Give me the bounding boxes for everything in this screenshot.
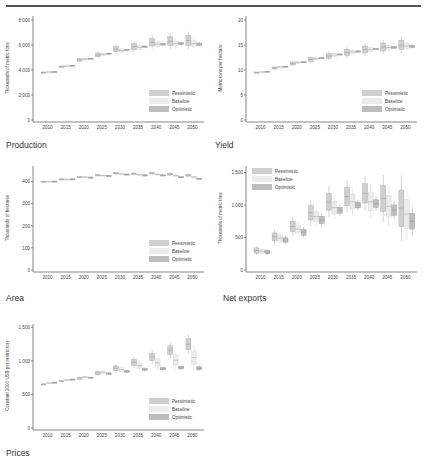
net-exports-plot: 05001,0001,500Thousands of metric tons20… <box>213 160 425 285</box>
legend-swatch <box>149 240 169 246</box>
area-plot: 0100200300400Thousands of hectares201020… <box>0 160 212 285</box>
y-tick-label: 200 <box>22 224 30 229</box>
x-tick-label: 2040 <box>364 275 375 280</box>
x-tick-label: 2035 <box>133 125 144 130</box>
x-tick-label: 2050 <box>400 275 411 280</box>
x-tick-label: 2025 <box>97 125 108 130</box>
y-tick-label: 0 <box>27 268 30 273</box>
x-tick-label: 2030 <box>115 433 126 438</box>
legend-label: Pessimistic <box>385 91 409 96</box>
y-tick-label: 1,500 <box>232 170 244 175</box>
y-tick-label: 0 <box>240 268 243 273</box>
x-tick-label: 2025 <box>97 275 108 280</box>
x-tick-label: 2045 <box>169 125 180 130</box>
x-tick-label: 2020 <box>292 125 303 130</box>
x-tick-label: 2040 <box>151 433 162 438</box>
y-tick-label: 0 <box>240 118 243 123</box>
chart-area: 0100200300400Thousands of hectares201020… <box>0 160 212 310</box>
legend-label: Pessimistic <box>172 399 196 404</box>
x-tick-label: 2030 <box>328 275 339 280</box>
y-tick-label: 4,000 <box>19 68 31 73</box>
y-tick-label: 5 <box>240 93 243 98</box>
y-tick-label: 20 <box>238 18 244 23</box>
legend-label: Baseline <box>172 99 190 104</box>
legend-label: Pessimistic <box>172 241 196 246</box>
chart-title-production: Production <box>6 140 47 150</box>
prices-plot: 05001,0001,500Constant 2000 US$ per metr… <box>0 318 212 443</box>
legend-swatch <box>149 248 169 254</box>
x-tick-label: 2050 <box>187 433 198 438</box>
legend-swatch <box>149 256 169 262</box>
x-tick-label: 2010 <box>42 125 53 130</box>
y-tick-label: 0 <box>27 426 30 431</box>
legend-label: Baseline <box>385 99 403 104</box>
x-tick-label: 2010 <box>42 275 53 280</box>
x-tick-label: 2010 <box>255 275 266 280</box>
x-tick-label: 2015 <box>61 275 72 280</box>
y-tick-label: 1,500 <box>19 325 31 330</box>
x-tick-label: 2035 <box>346 125 357 130</box>
x-tick-label: 2045 <box>382 125 393 130</box>
x-tick-label: 2020 <box>79 125 90 130</box>
y-axis-label: Thousands of hectares <box>5 194 10 241</box>
chart-title-area: Area <box>6 293 24 303</box>
chart-net-exports: 05001,0001,500Thousands of metric tons20… <box>213 160 425 310</box>
y-tick-label: 500 <box>22 392 30 397</box>
x-tick-label: 2020 <box>292 275 303 280</box>
y-tick-label: 0 <box>27 118 30 123</box>
y-tick-label: 1,000 <box>19 359 31 364</box>
x-tick-label: 2045 <box>169 275 180 280</box>
legend-swatch <box>252 168 272 174</box>
x-tick-label: 2015 <box>61 125 72 130</box>
y-tick-label: 100 <box>22 246 30 251</box>
legend-swatch <box>252 184 272 190</box>
y-tick-label: 2,000 <box>19 93 31 98</box>
y-tick-label: 1,000 <box>232 203 244 208</box>
x-tick-label: 2045 <box>382 275 393 280</box>
chart-production: 02,0004,0006,0008,000Thousands of metric… <box>0 10 212 160</box>
production-plot: 02,0004,0006,0008,000Thousands of metric… <box>0 10 212 135</box>
chart-yield: 05101520Metric tons per hectare201020152… <box>213 10 425 160</box>
y-axis-label: Thousands of metric tons <box>5 42 10 94</box>
y-axis-label: Thousands of metric tons <box>218 192 223 244</box>
x-tick-label: 2020 <box>79 275 90 280</box>
y-tick-label: 6,000 <box>19 43 31 48</box>
yield-plot: 05101520Metric tons per hectare201020152… <box>213 10 425 135</box>
legend-swatch <box>362 106 382 112</box>
chart-prices: 05001,0001,500Constant 2000 US$ per metr… <box>0 318 212 460</box>
legend-label: Optimistic <box>275 185 296 190</box>
legend-swatch <box>149 398 169 404</box>
x-tick-label: 2020 <box>79 433 90 438</box>
legend-label: Pessimistic <box>172 91 196 96</box>
x-tick-label: 2030 <box>328 125 339 130</box>
y-axis-label: Constant 2000 US$ per metric ton <box>5 341 10 411</box>
legend-swatch <box>252 176 272 182</box>
x-tick-label: 2015 <box>61 433 72 438</box>
x-tick-label: 2030 <box>115 275 126 280</box>
legend-label: Optimistic <box>172 257 193 262</box>
legend-label: Optimistic <box>172 415 193 420</box>
x-tick-label: 2050 <box>187 125 198 130</box>
y-axis-label: Metric tons per hectare <box>218 44 223 91</box>
y-tick-label: 10 <box>238 68 244 73</box>
legend-label: Optimistic <box>385 107 406 112</box>
x-tick-label: 2035 <box>133 433 144 438</box>
x-tick-label: 2040 <box>364 125 375 130</box>
x-tick-label: 2030 <box>115 125 126 130</box>
y-tick-label: 15 <box>238 43 244 48</box>
x-tick-label: 2015 <box>274 275 285 280</box>
legend-swatch <box>362 98 382 104</box>
legend-swatch <box>149 106 169 112</box>
legend-label: Pessimistic <box>275 169 299 174</box>
y-tick-label: 500 <box>235 235 243 240</box>
x-tick-label: 2010 <box>42 433 53 438</box>
top-rule <box>6 5 421 7</box>
x-tick-label: 2025 <box>97 433 108 438</box>
legend-label: Optimistic <box>172 107 193 112</box>
x-tick-label: 2050 <box>187 275 198 280</box>
chart-title-yield: Yield <box>215 140 234 150</box>
y-tick-label: 300 <box>22 201 30 206</box>
legend-swatch <box>362 90 382 96</box>
x-tick-label: 2050 <box>400 125 411 130</box>
x-tick-label: 2045 <box>169 433 180 438</box>
